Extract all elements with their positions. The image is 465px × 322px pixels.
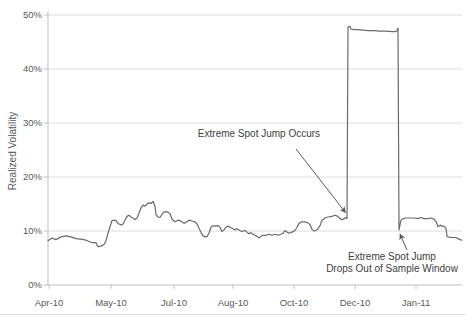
y-tick-40: 40% <box>8 63 42 75</box>
x-tick-jan11: Jan-11 <box>390 297 442 309</box>
bottom-horizontal-rule <box>0 314 465 315</box>
y-tick-30: 30% <box>8 117 42 129</box>
x-tick-jul10: Jul-10 <box>148 297 200 309</box>
annotation-jump-occurs: Extreme Spot Jump Occurs <box>192 128 326 140</box>
annotation-jump-drops-line2: Drops Out of Sample Window <box>323 263 461 275</box>
x-tick-apr10: Apr-10 <box>23 297 75 309</box>
y-tick-0: 0% <box>8 279 42 291</box>
y-tick-10: 10% <box>8 225 42 237</box>
x-tick-oct10: Oct-10 <box>268 297 320 309</box>
x-tick-may10: May-10 <box>85 297 137 309</box>
y-tick-50: 50% <box>8 9 42 21</box>
volatility-chart-figure: Realized Volatility 0% 10% 20% 30% 40% 5… <box>0 0 465 322</box>
x-tick-aug10: Aug-10 <box>207 297 259 309</box>
annotation-jump-drops-line1: Extreme Spot Jump <box>323 251 461 263</box>
x-tick-dec10: Dec-10 <box>329 297 381 309</box>
y-axis-title: Realized Volatility <box>7 101 21 201</box>
annotation-jump-drops: Extreme Spot Jump Drops Out of Sample Wi… <box>323 251 461 275</box>
y-tick-20: 20% <box>8 171 42 183</box>
